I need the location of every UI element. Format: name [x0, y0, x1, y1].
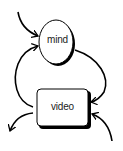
edge-video-to-external: [10, 113, 33, 131]
mind-node-label: mind: [47, 34, 68, 45]
video-node-label: video: [51, 101, 74, 112]
edge-video-to-mind: [15, 46, 38, 107]
diagram-canvas: [0, 0, 123, 151]
edge-external-to-mind: [18, 12, 38, 36]
edge-external-to-video: [92, 114, 112, 141]
